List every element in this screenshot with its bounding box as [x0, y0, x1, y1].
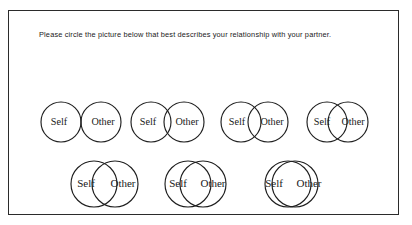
self-label: Self: [169, 177, 187, 189]
ios-item-1[interactable]: SelfOther: [37, 98, 125, 146]
ios-items-container: SelfOtherSelfOtherSelfOtherSelfOtherSelf…: [9, 11, 400, 216]
questionnaire-frame: Please circle the picture below that bes…: [8, 10, 399, 215]
ios-item-5[interactable]: SelfOther: [67, 157, 142, 211]
other-label: Other: [175, 116, 199, 127]
ios-item-7[interactable]: SelfOther: [261, 157, 322, 211]
other-label: Other: [260, 116, 284, 127]
self-label: Self: [265, 177, 283, 189]
other-label: Other: [110, 177, 135, 189]
self-label: Self: [314, 116, 331, 127]
other-label: Other: [341, 116, 365, 127]
other-label: Other: [200, 177, 225, 189]
ios-item-4[interactable]: SelfOther: [303, 98, 372, 146]
other-label: Other: [296, 177, 321, 189]
self-label: Self: [51, 116, 68, 127]
ios-item-3[interactable]: SelfOther: [217, 98, 292, 146]
self-label: Self: [77, 177, 95, 189]
ios-item-2[interactable]: SelfOther: [127, 98, 208, 146]
ios-item-6[interactable]: SelfOther: [161, 157, 230, 211]
self-label: Self: [229, 116, 246, 127]
self-label: Self: [140, 116, 157, 127]
other-label: Other: [91, 116, 115, 127]
